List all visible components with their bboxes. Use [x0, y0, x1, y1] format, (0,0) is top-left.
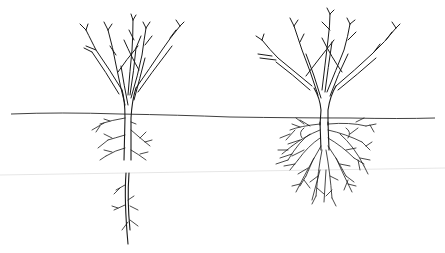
right-shrub-canopy — [256, 8, 400, 125]
scan-fold-line — [0, 168, 445, 175]
right-shrub-roots — [276, 118, 376, 206]
illustration-canvas — [0, 0, 445, 253]
ground-line — [11, 113, 435, 119]
left-shrub-roots — [92, 118, 152, 160]
right-shrub — [256, 8, 400, 206]
severed-root-segment — [112, 173, 138, 244]
left-shrub — [80, 14, 184, 244]
left-shrub-canopy — [80, 14, 184, 160]
